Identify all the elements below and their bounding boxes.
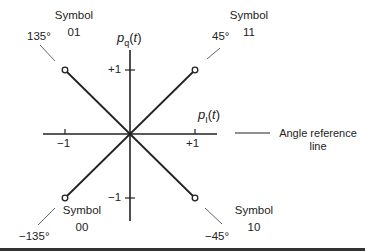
phasor-11 [130,72,193,134]
bottom-border [0,248,365,251]
phasor-01 [67,72,130,134]
symbol-label-11: Symbol11 [227,9,271,39]
symbol-point-10 [192,195,198,201]
angle-label-45: 45° [212,30,229,42]
angle-label-135: 135° [27,30,51,42]
angle-leader-minus135 [38,208,55,225]
symbol-point-11 [192,67,198,73]
phasor-00 [67,134,130,196]
symbol-label-00: Symbol00 [60,204,104,234]
angle-label-minus45: −45° [205,230,229,242]
symbol-label-10: Symbol10 [232,204,276,234]
tick-label-x-minus1: −1 [57,137,70,149]
symbol-point-00 [62,195,68,201]
angle-reference-label: Angle referenceline [272,127,364,153]
tick-label-y-plus1: +1 [108,63,121,75]
symbol-label-01: Symbol01 [52,9,96,39]
phasor-10 [130,134,193,196]
angle-leader-minus45 [205,208,222,224]
angle-label-minus135: −135° [19,230,50,242]
symbol-point-01 [62,67,68,73]
horizontal-axis-label: pI(t) [198,107,220,125]
vertical-axis-label: pq(t) [117,30,142,48]
tick-label-x-plus1: +1 [186,137,199,149]
angle-leader-45 [207,48,220,59]
angle-leader-135 [40,45,55,61]
tick-label-y-minus1: −1 [108,191,121,203]
